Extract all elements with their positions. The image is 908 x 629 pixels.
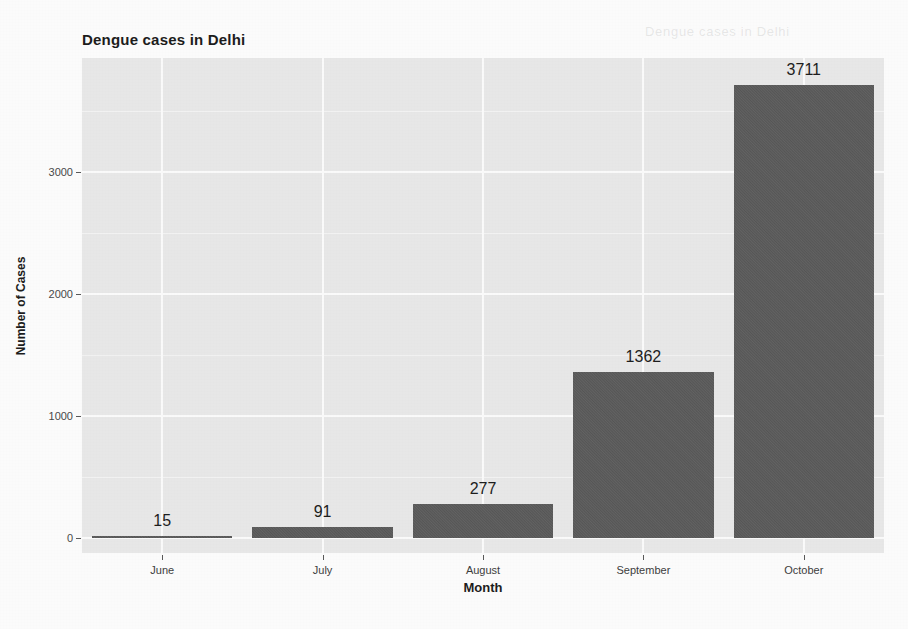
bar-value-label-september: 1362 <box>626 348 662 366</box>
x-tick-label-september: September <box>616 564 670 576</box>
x-tick-label-october: October <box>784 564 823 576</box>
scan-bleedthrough-artifact: Dengue cases in Delhi <box>645 24 790 40</box>
chart-screenshot: Dengue cases in Delhi Dengue cases in De… <box>0 0 908 629</box>
x-axis: JuneJulyAugustSeptemberOctober <box>0 0 908 629</box>
x-tick-mark-july <box>323 555 324 560</box>
x-tick-label-august: August <box>466 564 500 576</box>
x-tick-mark-june <box>162 555 163 560</box>
x-tick-mark-august <box>483 555 484 560</box>
x-tick-mark-october <box>804 555 805 560</box>
bar-value-label-june: 15 <box>153 512 171 530</box>
x-tick-label-july: July <box>313 564 333 576</box>
x-tick-mark-september <box>643 555 644 560</box>
bar-value-label-august: 277 <box>470 480 497 498</box>
x-axis-title: Month <box>464 580 503 595</box>
bar-value-label-october: 3711 <box>787 61 821 79</box>
bar-value-label-july: 91 <box>314 503 332 521</box>
y-axis-title: Number of Cases <box>14 257 28 356</box>
x-tick-label-june: June <box>150 564 174 576</box>
